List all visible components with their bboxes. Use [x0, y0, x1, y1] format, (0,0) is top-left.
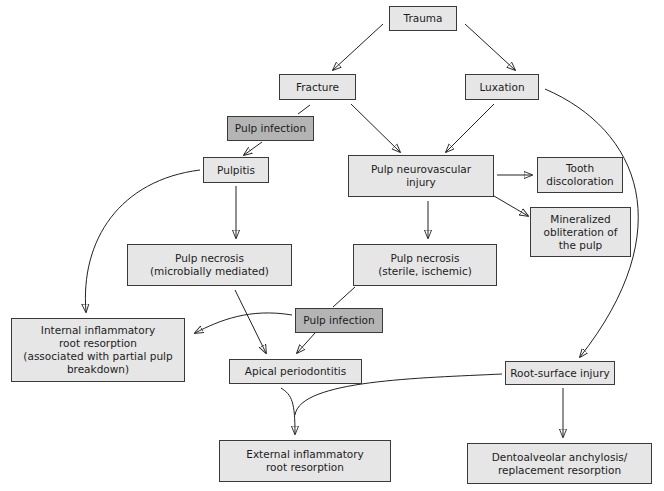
edge-necrosis-pulp-infection: [333, 287, 355, 307]
node-external-inflammatory-resorption: External inflammatory root resorption: [219, 440, 391, 482]
node-pulp-infection-secondary: Pulp infection: [295, 308, 383, 333]
node-tooth-discoloration: Tooth discoloration: [537, 157, 623, 193]
edge-neurovascular-mineralized: [494, 196, 528, 216]
edge-fracture-pulp-infection: [298, 105, 310, 114]
node-pulpitis: Pulpitis: [203, 157, 269, 183]
node-pulp-neurovascular-injury: Pulp neurovascular injury: [348, 155, 494, 197]
edge-apical-external: [281, 388, 295, 434]
edge-luxation-neurovascular: [446, 104, 494, 152]
node-trauma: Trauma: [389, 6, 457, 31]
node-root-surface-injury: Root-surface injury: [505, 361, 615, 385]
node-pulp-necrosis-microbial: Pulp necrosis (microbially mediated): [127, 244, 292, 286]
node-dentoalveolar-ankylosis: Dentoalveolar anchylosis/ replacement re…: [467, 443, 652, 484]
node-internal-inflammatory-resorption: Internal inflammatory root resorption (a…: [11, 318, 185, 382]
edge-pulp-infection-apical: [297, 333, 315, 353]
node-luxation: Luxation: [465, 74, 539, 100]
edge-pulpitis-internal: [85, 170, 200, 312]
node-apical-periodontitis: Apical periodontitis: [229, 359, 362, 384]
edge-pulp-infection-pulpitis: [244, 142, 262, 155]
node-pulp-necrosis-sterile: Pulp necrosis (sterile, ischemic): [353, 244, 497, 286]
edge-necrosis-apical: [235, 290, 266, 353]
edge-trauma-luxation: [465, 24, 515, 70]
edge-pulp-infection-internal: [195, 313, 292, 333]
edge-fracture-neurovascular: [351, 104, 400, 152]
node-fracture: Fracture: [279, 74, 356, 100]
node-mineralized-obliteration: Mineralized obliteration of the pulp: [530, 207, 631, 257]
edge-trauma-fracture: [333, 24, 383, 70]
node-pulp-infection-primary: Pulp infection: [227, 116, 314, 141]
